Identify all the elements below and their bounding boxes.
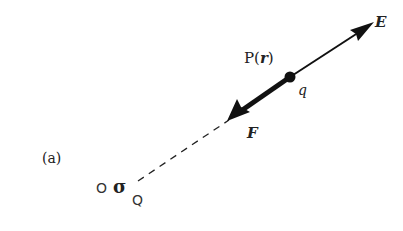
field-label-e: E — [374, 13, 387, 31]
field-vector-e — [290, 27, 367, 77]
source-label-q: Q — [132, 192, 143, 208]
charge-dot-icon — [285, 72, 296, 83]
force-vector-f — [238, 77, 290, 113]
field-label: E — [374, 13, 387, 31]
source-charge-symbol-icon: σ — [113, 176, 126, 197]
origin-label-o: O — [96, 180, 107, 196]
panel-label: (a) — [42, 150, 61, 166]
point-p-label: P(r) — [244, 49, 274, 67]
force-label-f: F — [246, 124, 259, 142]
field-force-diagram: E P(r) q F (a) O σ Q — [0, 0, 403, 231]
dashed-line-q-to-p — [138, 120, 229, 181]
charge-label-q: q — [298, 82, 307, 98]
field-arrowhead-icon — [350, 22, 374, 41]
